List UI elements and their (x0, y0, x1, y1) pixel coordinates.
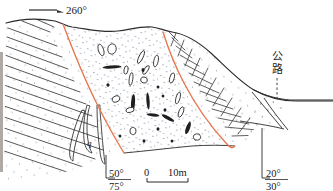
breccia-clast (142, 68, 145, 72)
breccia-clast (119, 134, 122, 137)
breccia-clast (157, 85, 160, 88)
direction-arrow-head (57, 10, 64, 13)
breccia-clast (164, 108, 167, 112)
scale-bar-min-label: 0 (144, 167, 149, 178)
left-dip-annotation: 50° 75° (106, 155, 131, 191)
scale-bar-group: 0 10m (144, 167, 188, 182)
scale-bar-max-label: 10m (168, 167, 187, 178)
left-dip-lower-label: 75° (109, 181, 124, 191)
breccia-clast (106, 83, 109, 87)
cross-section-canvas: 260° 公 路 公路 50° 75° 20° 30° q (0, 0, 333, 191)
road-annotation-group: 公 路 公路 (272, 50, 294, 100)
right-dip-lower-label: 30° (266, 181, 281, 191)
direction-arrow-group: 260° (29, 4, 87, 16)
breccia-clast (162, 94, 165, 97)
right-dip-annotation: 20° 30° (262, 128, 288, 191)
unit-q-label: q (87, 138, 92, 148)
left-dip-upper-label: 50° (109, 168, 124, 179)
direction-azimuth-label: 260° (66, 4, 87, 16)
right-dip-upper-label: 20° (266, 168, 281, 179)
scan-edge-artifact (0, 52, 3, 172)
breccia-clast (193, 133, 201, 141)
road-label-char-2: 路 (272, 63, 283, 76)
breccia-clast (143, 139, 146, 142)
geological-cross-section-figure: 260° 公 路 公路 50° 75° 20° 30° q (0, 0, 333, 191)
breccia-clast (171, 139, 174, 142)
breccia-clast (157, 127, 160, 131)
breccia-clast (129, 127, 136, 135)
